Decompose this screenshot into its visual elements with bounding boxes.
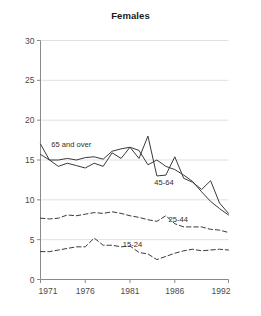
x-tick-label-1992: 1992 (212, 286, 231, 296)
chart-container: Females 051015202530 1971197619811986199… (0, 0, 261, 316)
y-tick-label-15: 15 (25, 155, 35, 165)
series-inline-labels: 65 and over45-6425-4415-24 (51, 140, 188, 249)
y-tick-label-20: 20 (25, 115, 35, 125)
y-axis-tick-labels: 051015202530 (25, 36, 35, 285)
series-label-45-64: 45-64 (154, 178, 173, 187)
x-tick-label-1986: 1986 (165, 286, 184, 296)
series-label-15-24: 15-24 (123, 240, 142, 249)
x-tick-label-1976: 1976 (76, 286, 95, 296)
y-tick-label-5: 5 (30, 235, 35, 245)
line-chart-plot: 051015202530 19711976198119861992 65 and… (0, 0, 261, 316)
series-line-45-64 (41, 147, 229, 215)
y-tick-label-25: 25 (25, 75, 35, 85)
series-label-65-and-over: 65 and over (51, 140, 92, 149)
series-line-25-44 (41, 212, 229, 233)
x-tick-label-1971: 1971 (39, 286, 58, 296)
x-axis-tick-labels: 19711976198119861992 (39, 286, 231, 296)
y-tick-label-0: 0 (30, 275, 35, 285)
y-tick-label-10: 10 (25, 195, 35, 205)
series-label-25-44: 25-44 (169, 215, 188, 224)
y-tick-label-30: 30 (25, 36, 35, 46)
x-tick-label-1981: 1981 (121, 286, 140, 296)
